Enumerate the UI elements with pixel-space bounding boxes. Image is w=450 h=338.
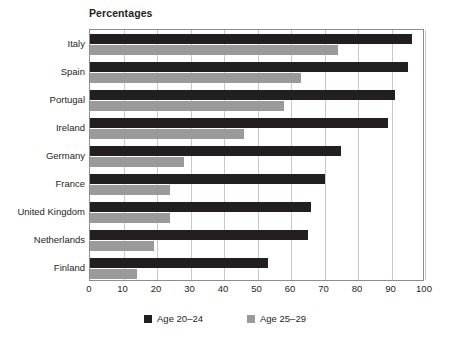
- bar-group: [90, 170, 423, 198]
- bar: [90, 185, 170, 195]
- bar: [90, 202, 311, 212]
- y-axis-label: Germany: [0, 150, 85, 161]
- bar-group: [90, 114, 423, 142]
- bar: [90, 157, 184, 167]
- bar-groups: [90, 30, 423, 280]
- legend-item: Age 20–24: [144, 313, 203, 324]
- y-axis-label: France: [0, 178, 85, 189]
- x-axis-tick-label: 60: [285, 283, 296, 294]
- x-axis-tick-label: 100: [416, 283, 432, 294]
- legend-label: Age 25–29: [260, 313, 306, 324]
- legend-swatch-black: [144, 315, 152, 323]
- y-axis-label: Netherlands: [0, 234, 85, 245]
- bar: [90, 174, 325, 184]
- bar: [90, 230, 308, 240]
- bar-group: [90, 58, 423, 86]
- plot-area: [89, 29, 424, 281]
- bar: [90, 213, 170, 223]
- x-axis-tick-label: 10: [117, 283, 128, 294]
- x-axis-tick-label: 20: [151, 283, 162, 294]
- chart-title: Percentages: [89, 7, 153, 19]
- y-axis-label: Ireland: [0, 122, 85, 133]
- bar-group: [90, 142, 423, 170]
- bar: [90, 45, 338, 55]
- bar: [90, 62, 408, 72]
- x-axis-tick-label: 80: [352, 283, 363, 294]
- legend-label: Age 20–24: [157, 313, 203, 324]
- bar: [90, 269, 137, 279]
- y-axis-label: Italy: [0, 38, 85, 49]
- bar: [90, 258, 268, 268]
- x-axis-tick-label: 90: [385, 283, 396, 294]
- bar-group: [90, 198, 423, 226]
- bar: [90, 129, 244, 139]
- bar: [90, 241, 154, 251]
- bar: [90, 90, 395, 100]
- gridline-100: [425, 30, 426, 280]
- x-axis-tick-label: 50: [251, 283, 262, 294]
- bar-group: [90, 86, 423, 114]
- y-axis-label: United Kingdom: [0, 206, 85, 217]
- bar: [90, 146, 341, 156]
- x-axis-tick-label: 30: [184, 283, 195, 294]
- bar-group: [90, 226, 423, 254]
- x-axis-tick-label: 70: [318, 283, 329, 294]
- y-axis-label: Portugal: [0, 94, 85, 105]
- bar-group: [90, 30, 423, 58]
- bar: [90, 118, 388, 128]
- bar-group: [90, 254, 423, 282]
- legend-swatch-gray: [247, 315, 255, 323]
- y-axis-labels: ItalySpainPortugalIrelandGermanyFranceUn…: [0, 29, 85, 281]
- bar: [90, 73, 301, 83]
- legend-item: Age 25–29: [247, 313, 306, 324]
- y-axis-label: Finland: [0, 262, 85, 273]
- bar: [90, 34, 412, 44]
- x-axis-tick-label: 40: [218, 283, 229, 294]
- x-axis-tick-label: 0: [86, 283, 91, 294]
- chart-legend: Age 20–24Age 25–29: [0, 313, 450, 324]
- bar: [90, 101, 284, 111]
- y-axis-label: Spain: [0, 66, 85, 77]
- chart-container: Percentages ItalySpainPortugalIrelandGer…: [0, 0, 450, 338]
- x-axis-ticks: 0102030405060708090100: [89, 283, 424, 299]
